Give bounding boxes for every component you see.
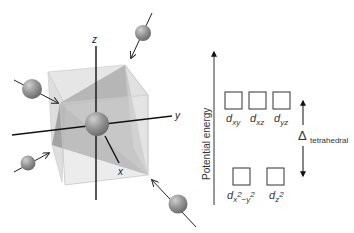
ligand-lower-right [152, 180, 196, 227]
ligand-sphere [135, 25, 151, 41]
orbital-box-dx2-y2 [233, 168, 250, 185]
ligand-top-right [131, 13, 152, 58]
orbital-label-dxz: dxz [250, 112, 264, 127]
tetrahedral-splitting-diagram: z y x Potential energy dxy dxz dyz dx2−y… [0, 0, 354, 233]
z-axis-label: z [91, 34, 97, 45]
orbital-box-dxy [225, 92, 242, 109]
central-metal-sphere [85, 112, 109, 136]
orbital-box-dyz [273, 92, 290, 109]
delta-subscript: tetrahedral [310, 136, 348, 145]
ligand-lower-left [14, 153, 49, 172]
orbital-label-dxy: dxy [226, 112, 241, 127]
ligand-sphere [21, 156, 36, 171]
energy-diagram: Potential energy dxy dxz dyz dx2−y2 dz2 … [201, 52, 348, 205]
orbital-box-dxz [249, 92, 266, 109]
potential-energy-label: Potential energy [201, 108, 212, 180]
orbital-label-dyz: dyz [274, 112, 288, 127]
delta-symbol: Δ [298, 128, 307, 143]
orbital-label-dx2-y2: dx2−y2 [227, 189, 255, 204]
x-axis-label: x [117, 166, 124, 177]
ligand-sphere [169, 195, 188, 214]
orbital-label-dz2: dz2 [269, 189, 284, 204]
ligand-sphere [22, 79, 42, 99]
orbital-box-dz2 [267, 168, 284, 185]
y-axis-label: y [174, 110, 181, 121]
